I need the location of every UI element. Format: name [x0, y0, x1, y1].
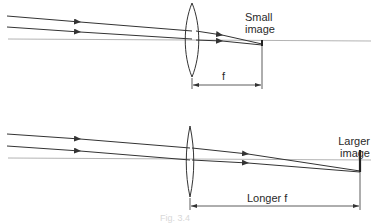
small-image-label-line2: image [245, 23, 275, 35]
refracted-ray-lower [192, 160, 248, 163]
larger-image-label-line2: image [330, 147, 370, 159]
focal-length-label: f [222, 70, 225, 82]
top-panel-short-focal-length [7, 3, 371, 89]
small-image-label-line1: Small [245, 11, 275, 23]
incoming-ray-lower [7, 27, 80, 32]
refracted-ray-upper [196, 31, 222, 35]
figure-caption: Fig. 3.4 [160, 213, 190, 223]
incoming-ray-lower [7, 146, 80, 151]
larger-image-label: Larger image [330, 135, 370, 159]
thin-convex-lens [186, 126, 194, 197]
longer-focal-length-label: Longer f [247, 192, 287, 204]
incoming-ray-upper [7, 16, 80, 22]
incoming-ray-upper [7, 134, 80, 139]
larger-image-label-line1: Larger [330, 135, 370, 147]
bottom-panel-long-focal-length [7, 126, 371, 210]
optics-diagram [0, 0, 371, 224]
refracted-ray-upper [192, 148, 248, 154]
small-image-label: Small image [245, 11, 275, 35]
